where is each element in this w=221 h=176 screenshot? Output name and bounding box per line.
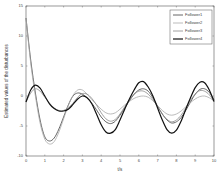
legend-label: Follower1 [185,12,203,17]
legend: Follower1Follower2Follower3Follower4 [170,10,212,44]
x-tick-label: 5 [119,158,122,163]
y-axis-label: Estimated values of the disturbances [4,43,9,117]
legend-label: Follower4 [185,36,203,41]
x-tick-label: 4 [100,158,103,163]
x-tick-label: 9 [194,158,197,163]
legend-label: Follower3 [185,28,203,33]
y-tick-label: -5 [19,123,23,128]
y-tick-label: 10 [19,33,24,38]
legend-label: Follower2 [185,20,203,25]
x-tick-label: 10 [212,158,217,163]
x-tick-label: 0 [25,158,28,163]
y-tick-label: -10 [17,153,24,158]
x-tick-label: 3 [81,158,84,163]
x-tick-label: 8 [175,158,178,163]
y-tick-label: 15 [19,3,24,8]
y-tick-label: 5 [21,63,24,68]
x-tick-label: 7 [156,158,159,163]
line-chart: 012345678910 -10-5051015 t/s Estimated v… [0,0,221,176]
y-tick-label: 0 [21,93,24,98]
x-tick-label: 6 [138,158,141,163]
x-tick-label: 1 [44,158,47,163]
x-tick-label: 2 [62,158,65,163]
x-axis-label: t/s [118,167,124,172]
